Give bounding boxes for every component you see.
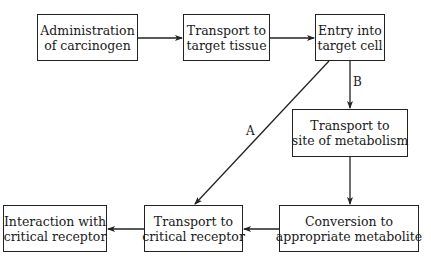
node-label-line2: appropriate metabolite xyxy=(276,229,422,244)
node-entry-into-target-cell: Entry into target cell xyxy=(315,14,385,61)
node-interaction-with-critical-receptor: Interaction with critical receptor xyxy=(3,205,107,252)
node-label-line1: Transport to xyxy=(187,23,266,38)
node-transport-to-site-of-metabolism: Transport to site of metabolism xyxy=(292,109,408,157)
node-administration-of-carcinogen: Administration of carcinogen xyxy=(37,14,138,61)
path-label-a: A xyxy=(246,124,255,138)
node-label-line2: site of metabolism xyxy=(292,133,408,148)
node-label-line1: Interaction with xyxy=(4,214,106,229)
node-label-line2: critical receptor xyxy=(4,229,107,244)
path-label-b: B xyxy=(353,75,362,89)
node-label-line2: target tissue xyxy=(186,38,266,53)
node-label-line1: Transport to xyxy=(154,214,233,229)
node-conversion-to-appropriate-metabolite: Conversion to appropriate metabolite xyxy=(279,205,419,252)
node-label-line2: critical receptor xyxy=(142,229,245,244)
node-label-line1: Entry into xyxy=(318,23,382,38)
node-label-line2: of carcinogen xyxy=(44,38,131,53)
node-label-line1: Conversion to xyxy=(305,214,393,229)
node-transport-to-critical-receptor: Transport to critical receptor xyxy=(144,205,243,252)
node-label-line2: target cell xyxy=(317,38,382,53)
node-transport-to-target-tissue: Transport to target tissue xyxy=(183,14,270,61)
node-label-line1: Administration xyxy=(40,23,134,38)
node-label-line1: Transport to xyxy=(310,118,389,133)
